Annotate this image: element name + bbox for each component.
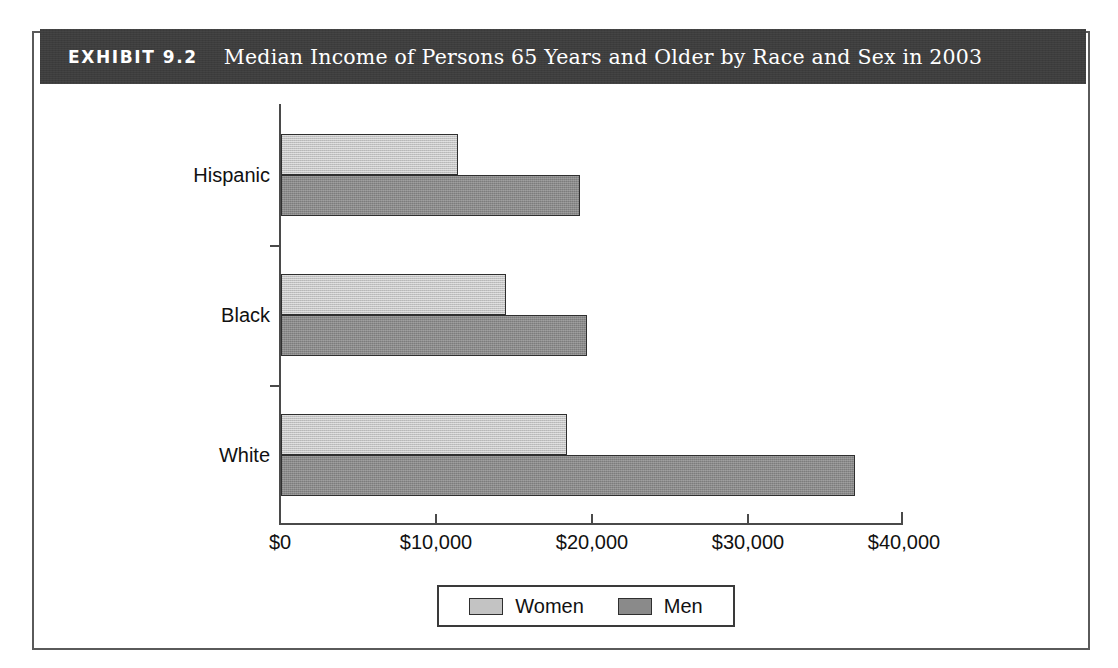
category-label-black: Black — [221, 304, 270, 327]
x-tick-label-30000: $30,000 — [712, 531, 784, 554]
exhibit-header: EXHIBIT 9.2 Median Income of Persons 65 … — [40, 29, 1086, 84]
category-label-hispanic: Hispanic — [193, 164, 270, 187]
bar-black-men — [281, 315, 587, 356]
bar-black-women — [281, 274, 506, 315]
legend-swatch-women — [469, 598, 503, 615]
bar-white-men — [281, 455, 855, 496]
bar-white-women — [281, 414, 567, 455]
legend-label-women: Women — [515, 595, 584, 618]
x-tick-label-20000: $20,000 — [556, 531, 628, 554]
x-axis-tick — [435, 514, 437, 525]
x-axis-tick — [279, 514, 281, 525]
legend-swatch-men — [618, 598, 652, 615]
x-tick-label-10000: $10,000 — [400, 531, 472, 554]
x-tick-label-40000: $40,000 — [868, 531, 940, 554]
category-label-white: White — [219, 444, 270, 467]
bar-hispanic-women — [281, 134, 458, 175]
x-axis-tick — [591, 514, 593, 525]
exhibit-number: EXHIBIT 9.2 — [68, 47, 198, 67]
x-tick-label-0: $0 — [269, 531, 291, 554]
y-axis-tick — [270, 245, 280, 247]
chart-plot-area: Hispanic Black White $0 $10,000 $20,000 … — [32, 84, 1090, 650]
legend-label-men: Men — [664, 595, 703, 618]
y-axis-tick — [270, 385, 280, 387]
x-axis-start-cap — [279, 104, 281, 116]
x-axis-end-cap — [901, 512, 903, 525]
chart-legend: Women Men — [437, 585, 735, 627]
legend-item-men: Men — [618, 595, 703, 618]
legend-item-women: Women — [469, 595, 584, 618]
bar-hispanic-men — [281, 175, 580, 216]
x-axis-tick — [747, 514, 749, 525]
exhibit-title: Median Income of Persons 65 Years and Ol… — [224, 45, 983, 69]
category-label-group: Hispanic Black White — [32, 84, 270, 524]
